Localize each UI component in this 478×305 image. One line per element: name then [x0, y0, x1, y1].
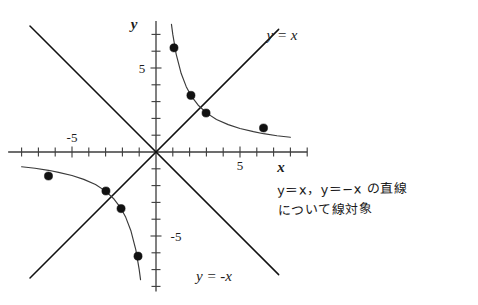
data-point	[117, 205, 125, 213]
line-label-y-equals-x: y = x	[265, 27, 298, 43]
data-point	[187, 91, 195, 99]
data-point	[44, 172, 52, 180]
axes-group	[8, 21, 307, 291]
line-y-equals-x	[30, 29, 279, 278]
line-label-y-equals-minus-x: y = -x	[194, 268, 232, 284]
data-point	[170, 44, 178, 52]
data-point	[134, 252, 142, 260]
x-axis-tick-label-negative: -5	[67, 130, 78, 145]
coordinate-plane-plot: 5-55-5yxy = xy = -x	[0, 0, 478, 305]
data-point	[259, 124, 267, 132]
data-point	[102, 187, 110, 195]
data-point	[202, 109, 210, 117]
x-axis-tick-label-positive: 5	[237, 158, 244, 173]
handwritten-annotation: y＝x，y＝−x の直線 について線対象	[277, 179, 408, 221]
line-y-equals-minus-x	[30, 26, 279, 275]
y-axis-tick-label-negative: -5	[171, 229, 182, 244]
annotation-line-1: y＝x，y＝−x の直線	[277, 179, 407, 201]
x-axis-label: x	[276, 159, 285, 175]
axis-and-line-labels-group: 5-55-5yxy = xy = -x	[67, 16, 298, 284]
y-axis-tick-label-positive: 5	[139, 61, 146, 76]
hyperbola-branch-2	[22, 167, 141, 280]
figure-container: 5-55-5yxy = xy = -x y＝x，y＝−x の直線 について線対象	[0, 0, 478, 305]
annotation-line-2: について線対象	[277, 199, 407, 221]
y-axis-label: y	[129, 16, 138, 32]
